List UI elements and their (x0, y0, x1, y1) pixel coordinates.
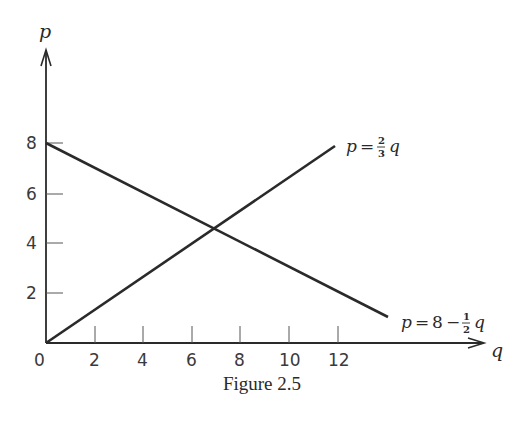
svg-text:=: = (415, 312, 429, 332)
y-ticks (46, 143, 63, 293)
svg-text:−: − (446, 312, 460, 332)
y-tick-label: 8 (26, 133, 37, 153)
y-tick-label: 4 (26, 233, 37, 253)
figure-caption: Figure 2.5 (0, 373, 524, 395)
svg-text:p: p (346, 136, 357, 156)
x-tick-label: 10 (279, 350, 301, 370)
svg-text:q: q (389, 136, 400, 156)
supply-line (46, 146, 335, 343)
y-tick-labels: 8 6 4 2 (26, 133, 37, 303)
svg-text:2: 2 (463, 324, 470, 335)
y-tick-label: 2 (26, 283, 37, 303)
svg-text:3: 3 (378, 148, 385, 159)
x-ticks (95, 326, 338, 343)
y-axis-label: p (39, 20, 51, 42)
supply-line-label: p = 2 3 q (346, 135, 400, 159)
x-tick-label: 8 (234, 350, 245, 370)
x-tick-label: 2 (89, 350, 100, 370)
svg-text:8: 8 (432, 312, 443, 332)
svg-text:2: 2 (378, 135, 385, 146)
x-axis-label: q (491, 339, 503, 361)
svg-text:1: 1 (463, 311, 470, 322)
axes (41, 50, 484, 348)
demand-line (46, 143, 388, 317)
x-tick-label: 4 (137, 350, 148, 370)
x-tick-label: 12 (328, 350, 350, 370)
origin-label: 0 (34, 350, 45, 370)
demand-line-label: p = 8 − 1 2 q (401, 311, 485, 335)
x-tick-label: 6 (186, 350, 197, 370)
svg-text:p: p (401, 312, 412, 332)
x-tick-labels: 0 2 4 6 8 10 12 (34, 350, 350, 370)
chart-figure: 0 2 4 6 8 10 12 8 6 4 2 p q p = 2 3 q p … (0, 0, 524, 421)
svg-text:q: q (474, 312, 485, 332)
svg-text:=: = (360, 136, 374, 156)
y-tick-label: 6 (26, 184, 37, 204)
